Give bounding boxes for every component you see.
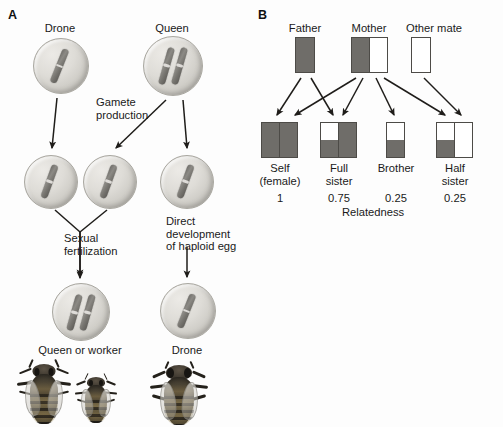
self-line2: (female) bbox=[259, 175, 300, 187]
genotype-box-mother bbox=[351, 37, 388, 73]
arrow-drone-to-sperm bbox=[52, 98, 57, 148]
genotype-segment bbox=[370, 38, 387, 72]
sexual-fertilization-line1: Sexual bbox=[64, 232, 98, 244]
direct-development-line1: Direct bbox=[166, 215, 195, 227]
genotype-segment bbox=[321, 123, 338, 140]
genotype-segment bbox=[387, 123, 404, 140]
genotype-segment bbox=[352, 38, 369, 72]
genotype-box-other-mate bbox=[411, 37, 431, 73]
cell-queen-parent bbox=[143, 36, 203, 96]
chromosome bbox=[177, 293, 197, 329]
genotype-segment bbox=[455, 123, 472, 140]
chromosome bbox=[99, 164, 118, 199]
label-other-mate: Other mate bbox=[398, 22, 470, 35]
relatedness-value-self: 1 bbox=[252, 192, 308, 205]
genotype-column bbox=[387, 123, 404, 157]
genotype-segment bbox=[280, 140, 297, 157]
genotype-segment bbox=[321, 140, 338, 157]
genotype-segment bbox=[262, 140, 279, 157]
genotype-column bbox=[412, 38, 430, 72]
label-father: Father bbox=[280, 22, 330, 35]
arrow-father-to-full-sister bbox=[311, 78, 333, 115]
arrow-mother-to-brother bbox=[376, 78, 394, 115]
fertilization-join-right bbox=[80, 210, 107, 232]
figure-root: A Drone Queen Gameteproduction Sexualfer… bbox=[0, 0, 503, 427]
genotype-column bbox=[321, 123, 338, 157]
direct-development-line2: development bbox=[166, 228, 230, 240]
label-direct-development: Directdevelopmentof haploid egg bbox=[166, 215, 270, 253]
genotype-segment bbox=[437, 140, 454, 157]
cell-drone-parent bbox=[33, 38, 89, 94]
arrow-other-mate-to-half-sister bbox=[424, 78, 461, 115]
chromosome bbox=[40, 164, 59, 199]
genotype-box-brother bbox=[386, 122, 405, 158]
genotype-segment bbox=[262, 123, 279, 140]
cell-sperm-gamete bbox=[24, 155, 78, 209]
genotype-column bbox=[338, 123, 356, 157]
chromosome bbox=[176, 164, 195, 199]
full-sister-line1: Full bbox=[330, 162, 348, 174]
genotype-segment bbox=[280, 123, 297, 140]
gamete-production-line1: Gamete bbox=[96, 96, 136, 108]
direct-development-line3: of haploid egg bbox=[166, 240, 236, 252]
relatedness-value-full-sister: 0.75 bbox=[311, 192, 367, 205]
label-queen-or-worker: Queen or worker bbox=[18, 344, 142, 357]
bee-worker bbox=[76, 372, 116, 426]
gamete-production-line2: production bbox=[96, 109, 148, 121]
genotype-segment bbox=[296, 38, 314, 72]
genotype-box-full-sister bbox=[320, 122, 357, 158]
label-drone-parent: Drone bbox=[28, 22, 92, 35]
relatedness-value-brother: 0.25 bbox=[368, 192, 424, 205]
brother-line1: Brother bbox=[378, 162, 415, 174]
label-mother: Mother bbox=[344, 22, 394, 35]
full-sister-line2: sister bbox=[326, 175, 353, 187]
arrow-mother-to-half-sister bbox=[384, 78, 445, 115]
genotype-segment bbox=[339, 123, 356, 140]
label-queen-parent: Queen bbox=[140, 22, 204, 35]
cell-egg-gamete-2 bbox=[160, 155, 214, 209]
sexual-fertilization-line2: fertilization bbox=[64, 245, 117, 257]
label-gamete-production: Gameteproduction bbox=[96, 96, 186, 121]
chromosome bbox=[50, 48, 70, 84]
genotype-column bbox=[262, 123, 279, 157]
genotype-box-self bbox=[261, 122, 298, 158]
genotype-column bbox=[437, 123, 454, 157]
axis-label-relatedness: Relatedness bbox=[318, 206, 428, 219]
genotype-segment bbox=[339, 140, 356, 157]
label-drone-outcome: Drone bbox=[152, 344, 222, 357]
genotype-segment bbox=[412, 38, 430, 72]
genotype-column bbox=[296, 38, 314, 72]
label-full-sister: Fullsister bbox=[311, 162, 367, 187]
genotype-box-father bbox=[295, 37, 315, 73]
label-self: Self(female) bbox=[252, 162, 308, 187]
cell-egg-gamete-1 bbox=[83, 155, 137, 209]
genotype-column bbox=[369, 38, 387, 72]
fertilization-join-left bbox=[55, 210, 80, 232]
self-line1: Self bbox=[270, 162, 289, 174]
genotype-segment bbox=[387, 140, 404, 157]
bee-drone bbox=[152, 360, 206, 426]
bee-queen bbox=[18, 358, 70, 426]
genotype-box-half-sister bbox=[436, 122, 473, 158]
relatedness-value-half-sister: 0.25 bbox=[427, 192, 483, 205]
arrow-mother-to-self bbox=[295, 78, 356, 115]
panel-b-letter: B bbox=[258, 8, 267, 22]
genotype-column bbox=[352, 38, 369, 72]
half-sister-line2: sister bbox=[442, 175, 469, 187]
arrow-father-to-self bbox=[277, 78, 301, 115]
label-sexual-fertilization: Sexualfertilization bbox=[64, 232, 160, 257]
label-brother: Brother bbox=[368, 162, 424, 175]
panel-a-letter: A bbox=[8, 8, 17, 22]
genotype-segment bbox=[455, 140, 472, 157]
label-half-sister: Halfsister bbox=[427, 162, 483, 187]
arrow-mother-to-full-sister bbox=[343, 78, 363, 115]
cell-zygote-female bbox=[52, 283, 110, 341]
cell-haploid-egg bbox=[160, 283, 216, 339]
half-sister-line1: Half bbox=[445, 162, 465, 174]
genotype-column bbox=[279, 123, 297, 157]
genotype-segment bbox=[437, 123, 454, 140]
genotype-column bbox=[454, 123, 472, 157]
